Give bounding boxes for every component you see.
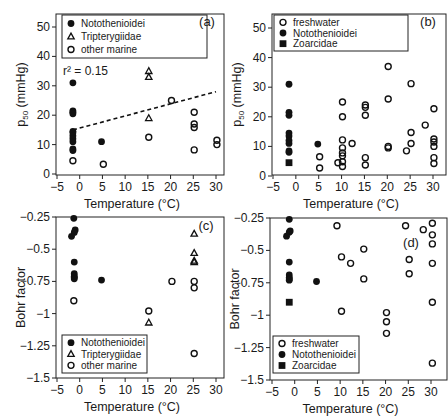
y-tick-label: −1 <box>36 307 50 321</box>
y-tick-label: 10 <box>253 139 267 153</box>
panel-label: (c) <box>198 218 213 233</box>
x-tick-label: 15 <box>358 180 372 194</box>
x-tick-label: 5 <box>315 180 322 194</box>
marker-open-triangle <box>191 230 197 236</box>
marker-filled-square <box>286 159 293 166</box>
x-tick-label: 0 <box>76 180 83 194</box>
marker-open-circle <box>408 81 414 87</box>
legend-label: Notothenioidei <box>81 337 145 348</box>
marker-open-circle <box>191 147 197 153</box>
chart-panel-b: −505101520253001020304050Temperature (°C… <box>230 14 446 211</box>
marker-filled-circle <box>70 110 77 117</box>
chart-panel-d: −5051015202530−0.25−0.5−0.75−1−1.25−1.5T… <box>228 211 447 416</box>
marker-open-circle <box>403 223 409 229</box>
marker-filled-circle <box>313 278 320 285</box>
marker-filled-circle <box>98 138 105 145</box>
x-tick-label: 0 <box>293 180 300 194</box>
marker-open-circle <box>70 158 76 164</box>
marker-open-circle <box>429 220 435 226</box>
r-squared-annotation: r² = 0.15 <box>63 64 108 78</box>
series-notothenioidei <box>68 215 105 284</box>
marker-open-circle <box>339 137 345 143</box>
marker-open-circle <box>71 298 77 304</box>
marker-filled-circle <box>280 30 287 37</box>
legend-label: Notothenioidei <box>292 349 356 360</box>
legend: NotothenioideiTripterygiidaeother marine <box>62 335 147 373</box>
y-tick-label: −0.5 <box>26 242 50 256</box>
legend-label: freshwater <box>293 17 340 28</box>
legend: freshwaterNotothenioideiZoarcidae <box>274 15 408 51</box>
panel-label: (a) <box>199 14 215 29</box>
marker-open-circle <box>317 154 323 160</box>
marker-open-circle <box>191 285 197 291</box>
y-tick-label: −1.5 <box>240 373 264 387</box>
marker-open-circle <box>339 114 345 120</box>
x-axis-title: Temperature (°C) <box>84 197 180 211</box>
marker-open-circle <box>429 241 435 247</box>
panel-label: (d) <box>403 235 419 250</box>
chart-panel-a: −505101520253001020304050Temperature (°C… <box>14 14 224 211</box>
y-tick-label: −1.25 <box>234 341 265 355</box>
marker-filled-circle <box>283 233 290 240</box>
marker-filled-square <box>279 362 286 369</box>
marker-open-circle <box>317 165 323 171</box>
x-tick-label: 20 <box>381 180 395 194</box>
x-tick-label: 20 <box>379 385 393 399</box>
marker-open-circle <box>146 134 152 140</box>
x-tick-label: 25 <box>187 180 201 194</box>
x-tick-label: 25 <box>402 385 416 399</box>
x-tick-label: 10 <box>118 180 132 194</box>
marker-filled-circle <box>70 215 77 222</box>
marker-filled-circle <box>286 140 293 147</box>
y-tick-label: 20 <box>37 108 51 122</box>
marker-open-circle <box>362 155 368 161</box>
marker-open-circle <box>408 129 414 135</box>
y-tick-label: 40 <box>253 51 267 65</box>
marker-filled-circle <box>286 81 293 88</box>
legend-label: Zoarcidae <box>293 38 338 49</box>
marker-open-circle <box>429 299 435 305</box>
marker-open-circle <box>349 140 355 146</box>
marker-open-circle <box>429 260 435 266</box>
y-tick-label: 0 <box>259 169 266 183</box>
x-axis-title: Temperature (°C) <box>303 402 399 416</box>
x-tick-label: 10 <box>333 385 347 399</box>
y-tick-label: −0.25 <box>234 211 265 225</box>
marker-open-circle <box>168 98 174 104</box>
marker-open-circle <box>100 161 106 167</box>
marker-open-circle <box>191 109 197 115</box>
x-tick-label: 5 <box>99 180 106 194</box>
y-tick-label: 30 <box>253 80 267 94</box>
marker-filled-square <box>280 40 287 47</box>
marker-filled-square <box>286 299 293 306</box>
legend: NotothenioideiTripterygiidaeother marine <box>62 15 207 58</box>
marker-filled-circle <box>68 233 75 240</box>
marker-open-circle <box>385 96 391 102</box>
y-axis-title: p50 (mmHg) <box>230 62 246 126</box>
marker-open-circle <box>339 99 345 105</box>
marker-open-circle <box>406 256 412 262</box>
marker-filled-circle <box>68 20 75 27</box>
series-tripterygiidae <box>146 230 198 325</box>
marker-filled-circle <box>70 147 77 154</box>
x-tick-label: −5 <box>50 383 64 397</box>
marker-open-circle <box>339 254 345 260</box>
series-notothenioidei <box>286 81 322 156</box>
series-other-marine <box>70 98 220 168</box>
marker-open-circle <box>146 308 152 314</box>
x-tick-label: 10 <box>335 180 349 194</box>
x-tick-label: 30 <box>426 180 440 194</box>
x-axis-title: Temperature (°C) <box>303 197 399 211</box>
marker-open-triangle <box>146 115 152 121</box>
y-axis-title: Bohr factor <box>228 268 242 329</box>
marker-filled-circle <box>68 339 75 346</box>
x-tick-label: 10 <box>118 383 132 397</box>
marker-open-circle <box>361 246 367 252</box>
x-tick-label: 30 <box>209 383 223 397</box>
marker-open-circle <box>383 319 389 325</box>
marker-open-triangle <box>146 319 152 325</box>
marker-open-circle <box>431 106 437 112</box>
series-notothenioidei <box>70 79 105 153</box>
x-tick-label: 0 <box>76 383 83 397</box>
series-freshwater <box>317 63 437 171</box>
